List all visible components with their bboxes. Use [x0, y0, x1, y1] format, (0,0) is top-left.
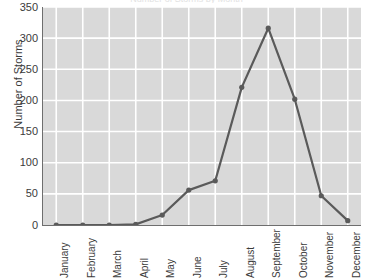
plot-area	[42, 7, 361, 226]
x-axis-tick-label: November	[325, 232, 335, 278]
y-axis-tick-label: 100	[12, 157, 38, 168]
x-axis-tick-label: April	[140, 258, 150, 278]
y-axis-tick-label: 300	[12, 33, 38, 44]
y-axis-tick-label: 50	[12, 188, 38, 199]
y-axis-tick-label: 150	[12, 126, 38, 137]
x-axis-tick-label: February	[87, 238, 97, 278]
y-axis-tick-label: 0	[12, 220, 38, 231]
y-axis-tick-labels: 050100150200250300350	[8, 0, 38, 280]
x-axis-tick-label: July	[219, 260, 229, 278]
storms-by-month-line-chart: Number of Storms by Month Number of Stor…	[0, 0, 373, 280]
x-axis-tick-label: March	[113, 250, 123, 278]
x-axis-tick-label: December	[352, 232, 362, 278]
x-axis-tick-label: August	[246, 247, 256, 278]
chart-title: Number of Storms by Month	[0, 0, 373, 3]
y-axis-tick-label: 250	[12, 64, 38, 75]
y-axis-tick-label: 200	[12, 95, 38, 106]
x-axis-tick-label: January	[60, 242, 70, 278]
x-axis-tick-label: October	[299, 242, 309, 278]
x-axis-tick-label: June	[193, 256, 203, 278]
x-axis-tick-label: September	[272, 229, 282, 278]
x-axis-tick-label: May	[166, 259, 176, 278]
storms-series	[43, 7, 361, 225]
y-axis-tick-label: 350	[12, 2, 38, 13]
x-axis-tick-labels: JanuaryFebruaryMarchAprilMayJuneJulyAugu…	[42, 226, 360, 280]
